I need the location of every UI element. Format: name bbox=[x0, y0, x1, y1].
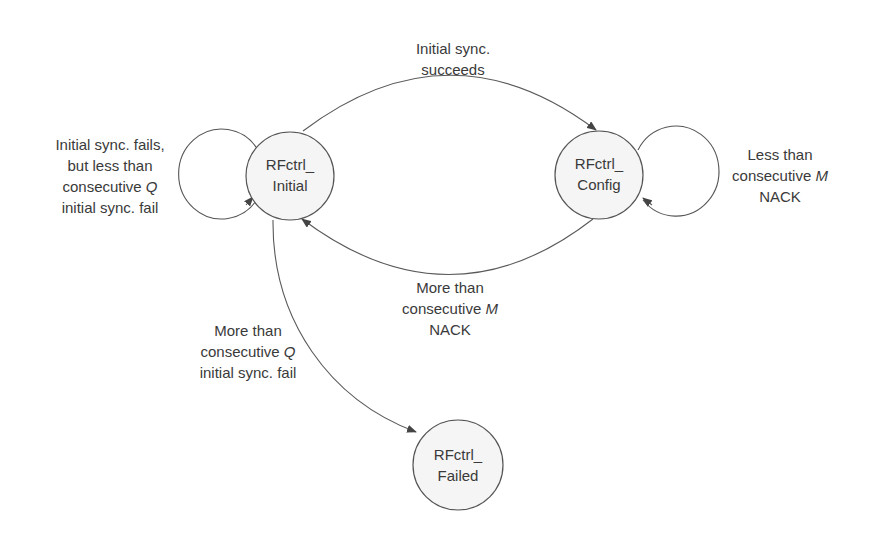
state-rfctrl-config: RFctrl_ Config bbox=[555, 131, 643, 219]
svg-text:NACK: NACK bbox=[429, 321, 471, 338]
state-label: Initial bbox=[272, 177, 307, 194]
state-label: RFctrl_ bbox=[266, 156, 315, 173]
label-initial-to-failed: More than consecutive Q initial sync. fa… bbox=[200, 322, 297, 381]
state-diagram: RFctrl_ Initial RFctrl_ Config RFctrl_ F… bbox=[0, 0, 873, 547]
svg-text:consecutive M: consecutive M bbox=[402, 300, 498, 317]
svg-text:but less than: but less than bbox=[67, 157, 152, 174]
svg-text:Initial sync. fails,: Initial sync. fails, bbox=[55, 136, 164, 153]
state-label: Failed bbox=[438, 467, 479, 484]
label-initial-to-config: Initial sync. succeeds bbox=[416, 40, 490, 78]
svg-text:consecutive Q: consecutive Q bbox=[200, 343, 295, 360]
svg-text:NACK: NACK bbox=[759, 188, 801, 205]
state-rfctrl-initial: RFctrl_ Initial bbox=[246, 132, 334, 220]
svg-text:Initial sync.: Initial sync. bbox=[416, 40, 490, 57]
state-label: RFctrl_ bbox=[434, 446, 483, 463]
transition-config-to-initial bbox=[302, 219, 593, 275]
label-config-to-initial: More than consecutive M NACK bbox=[402, 279, 498, 338]
state-rfctrl-failed: RFctrl_ Failed bbox=[413, 420, 503, 510]
state-label: Config bbox=[577, 176, 620, 193]
svg-text:consecutive Q: consecutive Q bbox=[62, 178, 157, 195]
label-initial-self-loop: Initial sync. fails, but less than conse… bbox=[55, 136, 164, 216]
svg-text:succeeds: succeeds bbox=[421, 61, 484, 78]
svg-text:More than: More than bbox=[416, 279, 484, 296]
transition-initial-to-config bbox=[303, 75, 596, 131]
svg-text:initial sync. fail: initial sync. fail bbox=[200, 364, 297, 381]
svg-text:More than: More than bbox=[214, 322, 282, 339]
transition-config-self-loop bbox=[638, 126, 719, 216]
svg-text:Less than: Less than bbox=[747, 146, 812, 163]
state-label: RFctrl_ bbox=[575, 155, 624, 172]
svg-text:initial sync. fail: initial sync. fail bbox=[62, 199, 159, 216]
transition-initial-to-failed bbox=[273, 220, 416, 432]
svg-text:consecutive M: consecutive M bbox=[732, 167, 828, 184]
label-config-self-loop: Less than consecutive M NACK bbox=[732, 146, 828, 205]
